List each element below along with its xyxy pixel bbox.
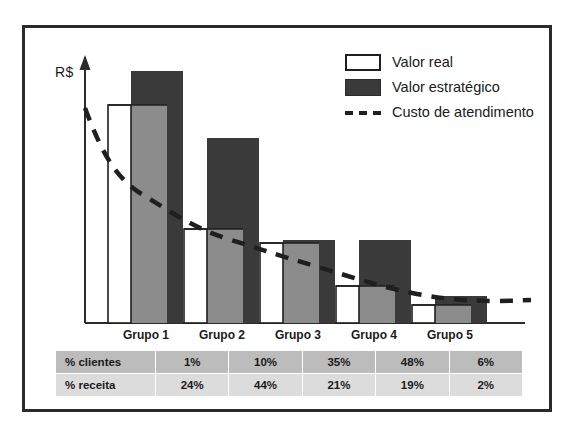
y-axis bbox=[80, 55, 91, 323]
row-header-clientes: % clientes bbox=[56, 351, 156, 374]
y-axis-label: R$ bbox=[55, 64, 74, 80]
table-cell: 6% bbox=[449, 351, 522, 374]
bar-group-grupo-3 bbox=[260, 240, 335, 323]
table-row: % receita 24% 44% 21% 19% 2% bbox=[56, 374, 523, 397]
row-header-receita: % receita bbox=[56, 374, 156, 397]
group-label-grupo-5: Grupo 5 bbox=[405, 328, 495, 342]
legend-item-valor-estrategico: Valor estratégico bbox=[345, 75, 565, 99]
bar-valor-real bbox=[336, 286, 359, 323]
summary-data-table: % clientes 1% 10% 35% 48% 6% % receita 2… bbox=[55, 350, 523, 397]
bar-group-grupo-2 bbox=[184, 138, 259, 323]
legend-label: Valor real bbox=[392, 54, 453, 70]
table-cell: 1% bbox=[156, 351, 229, 374]
table-cell: 44% bbox=[229, 374, 302, 397]
table-cell: 35% bbox=[302, 351, 375, 374]
table-cell: 48% bbox=[376, 351, 449, 374]
legend-item-valor-real: Valor real bbox=[345, 50, 565, 74]
x-axis-group-labels: Grupo 1 Grupo 2 Grupo 3 Grupo 4 Grupo 5 bbox=[25, 328, 555, 348]
bar-valor-real bbox=[184, 229, 207, 323]
chart-frame: R$ Valor real Valor estratégico Custo de… bbox=[22, 25, 552, 412]
bar-overlap-region bbox=[359, 286, 395, 323]
bar-overlap-region bbox=[435, 305, 471, 323]
bar-overlap-region bbox=[283, 243, 319, 323]
table-cell: 10% bbox=[229, 351, 302, 374]
table-cell: 21% bbox=[302, 374, 375, 397]
legend-label: Custo de atendimento bbox=[392, 104, 534, 120]
filled-box-swatch-icon bbox=[345, 79, 381, 96]
bar-group-grupo-5 bbox=[412, 296, 487, 323]
chart-legend: Valor real Valor estratégico Custo de at… bbox=[345, 50, 565, 125]
open-box-swatch-icon bbox=[345, 54, 381, 71]
legend-item-custo-de-atendimento: Custo de atendimento bbox=[345, 100, 565, 124]
dashed-line-swatch-icon bbox=[345, 104, 381, 121]
bar-overlap-region bbox=[131, 105, 167, 323]
table-row: % clientes 1% 10% 35% 48% 6% bbox=[56, 351, 523, 374]
legend-label: Valor estratégico bbox=[392, 79, 500, 95]
bar-valor-real bbox=[108, 105, 131, 323]
bar-group-grupo-1 bbox=[108, 71, 183, 323]
plot-area: R$ Valor real Valor estratégico Custo de… bbox=[25, 28, 555, 415]
table-cell: 19% bbox=[376, 374, 449, 397]
table-cell: 24% bbox=[156, 374, 229, 397]
bar-valor-real bbox=[412, 305, 435, 323]
table-cell: 2% bbox=[449, 374, 522, 397]
